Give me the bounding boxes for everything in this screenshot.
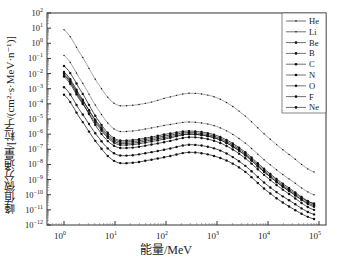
series-he [63,29,314,173]
y-tick-label: 10−8 [28,158,43,169]
svg-text:Ne: Ne [309,102,319,112]
legend: HeLiBeBCNOFNe [282,13,326,113]
y-tick-label: 10−5 [28,113,43,124]
x-tick-label: 100 [54,230,66,241]
y-tick-label: 10−12 [25,219,43,230]
y-tick-label: 10−1 [28,52,43,63]
y-tick-label: 10−7 [28,143,43,154]
y-axis-label: 峰值微分通量/[粒子/(cm²·s·MeV·n⁻¹)] [2,25,16,225]
x-tick-label: 105 [309,230,321,241]
y-tick-label: 10−4 [28,98,43,109]
x-tick-label: 103 [207,230,219,241]
svg-text:Be: Be [309,38,319,48]
series-n [63,74,315,211]
x-tick-label: 101 [105,230,117,241]
y-tick-label: 10−11 [25,204,43,215]
y-tick-label: 10−9 [28,174,43,185]
y-tick-label: 100 [32,37,44,48]
svg-text:O: O [309,81,315,91]
y-tick-label: 10−2 [28,68,43,79]
y-tick-label: 101 [32,22,44,33]
svg-text:N: N [309,70,315,80]
x-axis-label: 能量/MeV [140,240,192,258]
svg-text:F: F [309,92,314,102]
series-f [63,86,315,216]
y-tick-label: 10−6 [28,128,43,139]
svg-text:B: B [309,48,315,58]
chart-canvas: 10210110010−110−210−310−410−510−610−710−… [0,0,341,260]
svg-text:C: C [309,59,315,69]
y-tick-label: 10−3 [28,83,43,94]
y-tick-label: 10−10 [25,189,43,200]
svg-text:He: He [309,16,319,26]
x-tick-label: 104 [258,230,270,241]
svg-text:Li: Li [309,27,317,37]
y-tick-label: 102 [32,7,44,18]
